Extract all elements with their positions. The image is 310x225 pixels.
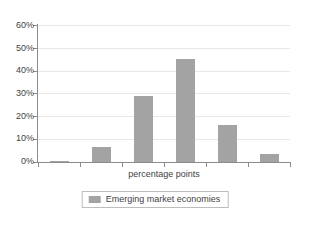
x-axis-title: percentage points bbox=[38, 169, 290, 180]
y-axis-label-60: 60% bbox=[4, 21, 34, 30]
y-axis-label-0: 0% bbox=[4, 157, 34, 166]
y-axis-label-10: 10% bbox=[4, 134, 34, 143]
x-tick-0 bbox=[38, 163, 39, 167]
bar-2 bbox=[92, 147, 111, 162]
x-tick-1 bbox=[80, 163, 81, 167]
x-tick-3 bbox=[164, 163, 165, 167]
x-tick-5 bbox=[248, 163, 249, 167]
legend-swatch-icon bbox=[89, 196, 101, 203]
x-tick-6 bbox=[290, 163, 291, 167]
x-tick-2 bbox=[122, 163, 123, 167]
legend-label-emerging-market-economies: Emerging market economies bbox=[106, 194, 221, 204]
y-axis-line bbox=[37, 24, 38, 163]
y-axis-label-30: 30% bbox=[4, 89, 34, 98]
bar-3 bbox=[134, 96, 153, 162]
bar-6 bbox=[260, 154, 279, 162]
bar-4 bbox=[176, 59, 195, 162]
bar-5 bbox=[218, 125, 237, 162]
y-axis-label-40: 40% bbox=[4, 66, 34, 75]
y-axis-label-20: 20% bbox=[4, 112, 34, 121]
chart-legend: Emerging market economies bbox=[82, 191, 229, 208]
x-tick-4 bbox=[206, 163, 207, 167]
bar-chart: 60% 50% 40% 30% 20% 10% 0% percentage po… bbox=[0, 0, 310, 225]
bar-series-emerging-market-economies bbox=[38, 25, 290, 162]
y-axis-label-50: 50% bbox=[4, 44, 34, 53]
